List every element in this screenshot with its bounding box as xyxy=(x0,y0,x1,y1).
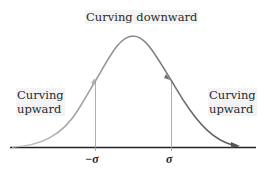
label-curving-upward-right: Curving upward xyxy=(208,88,257,116)
label-left-line2: upward xyxy=(17,102,64,116)
label-right-line2: upward xyxy=(209,102,256,116)
label-curving-downward: Curving downward xyxy=(85,10,198,24)
label-right-line1: Curving xyxy=(209,88,256,102)
tick-label-sigma: σ xyxy=(166,152,172,167)
arrow-left-icon xyxy=(91,78,95,85)
label-left-line1: Curving xyxy=(17,88,64,102)
label-curving-upward-left: Curving upward xyxy=(16,88,65,116)
tick-label-minus-sigma: −σ xyxy=(85,152,99,167)
